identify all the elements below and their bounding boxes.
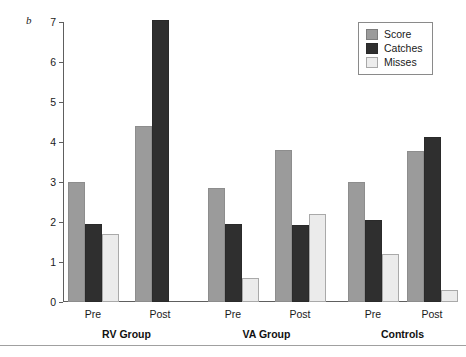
- legend-item-label: Catches: [384, 43, 423, 54]
- x-axis-tick-label: Pre: [85, 308, 101, 320]
- bar-score-3: [275, 150, 292, 302]
- bar-misses-3: [309, 214, 326, 302]
- bar-misses-5: [441, 290, 458, 302]
- bar-score-1: [135, 126, 152, 302]
- x-axis-group-label: Controls: [381, 328, 424, 340]
- bar-catches-1: [152, 20, 169, 302]
- bar-catches-3: [292, 225, 309, 302]
- x-axis-group-label: VA Group: [243, 328, 291, 340]
- legend-swatch-icon: [366, 57, 378, 68]
- y-axis-tick-mark: [59, 302, 63, 303]
- y-axis-tick-mark: [59, 22, 63, 23]
- y-axis-tick-label: 7: [50, 16, 56, 28]
- x-axis-tick-label: Pre: [225, 308, 241, 320]
- legend-swatch-icon: [366, 43, 378, 54]
- legend-item-label: Misses: [384, 57, 417, 68]
- bar-catches-2: [225, 224, 242, 302]
- chart-legend: ScoreCatchesMisses: [358, 22, 433, 75]
- bar-misses-4: [382, 254, 399, 302]
- legend-item-misses[interactable]: Misses: [366, 57, 423, 68]
- y-axis-tick-label: 6: [50, 56, 56, 68]
- bar-misses-2: [242, 278, 259, 302]
- x-axis-tick-label: Post: [421, 308, 442, 320]
- x-axis-tick-label: Pre: [365, 308, 381, 320]
- bar-catches-4: [365, 220, 382, 302]
- x-axis-group-label: RV Group: [102, 328, 151, 340]
- y-axis-tick-label: 4: [50, 136, 56, 148]
- bar-misses-0: [102, 234, 119, 302]
- legend-item-label: Score: [384, 29, 411, 40]
- y-axis-tick-label: 2: [50, 216, 56, 228]
- x-axis-tick-label: Post: [149, 308, 170, 320]
- y-axis-tick-mark: [59, 262, 63, 263]
- y-axis-line: [63, 22, 64, 302]
- figure-panel-b: b 01234567 PrePostPrePostPrePost RV Grou…: [0, 0, 466, 357]
- y-axis-tick-mark: [59, 182, 63, 183]
- y-axis-tick-label: 5: [50, 96, 56, 108]
- y-axis-tick-label: 3: [50, 176, 56, 188]
- y-axis-tick-mark: [59, 62, 63, 63]
- bar-catches-5: [424, 137, 441, 302]
- y-axis-tick-mark: [59, 142, 63, 143]
- bar-score-2: [208, 188, 225, 302]
- panel-label: b: [26, 14, 32, 26]
- bottom-divider-rule: [0, 345, 466, 346]
- legend-item-score[interactable]: Score: [366, 29, 423, 40]
- bar-score-0: [68, 182, 85, 302]
- bar-catches-0: [85, 224, 102, 302]
- y-axis-tick-mark: [59, 222, 63, 223]
- bar-score-5: [407, 151, 424, 302]
- legend-swatch-icon: [366, 29, 378, 40]
- x-axis-tick-label: Post: [289, 308, 310, 320]
- bar-score-4: [348, 182, 365, 302]
- legend-item-catches[interactable]: Catches: [366, 43, 423, 54]
- y-axis-tick-mark: [59, 102, 63, 103]
- y-axis-tick-label: 0: [50, 296, 56, 308]
- y-axis-tick-label: 1: [50, 256, 56, 268]
